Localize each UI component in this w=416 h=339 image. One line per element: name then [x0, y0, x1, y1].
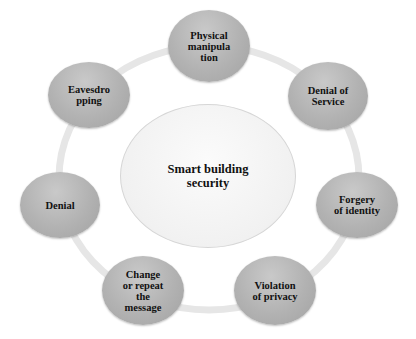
node-label: Physical manipula tion	[182, 30, 237, 63]
node-label: Denial of Service	[302, 85, 355, 107]
node-denial: Denial	[20, 172, 100, 238]
node-physical-manipulation: Physical manipula tion	[168, 10, 250, 82]
node-forgery-of-identity: Forgery of identity	[316, 172, 398, 238]
smart-building-security-diagram: Smart building security Physical manipul…	[0, 0, 416, 339]
node-denial-of-service: Denial of Service	[288, 62, 368, 130]
center-topic: Smart building security	[120, 104, 296, 248]
node-label: Denial	[39, 200, 80, 211]
node-change-or-repeat-the-message: Change or repeat the message	[102, 256, 184, 325]
center-label: Smart building security	[168, 162, 249, 190]
node-violation-of-privacy: Violation of privacy	[234, 256, 316, 325]
node-label: Forgery of identity	[328, 194, 386, 216]
node-eavesdropping: Eavesdro pping	[48, 62, 130, 128]
node-label: Violation of privacy	[246, 280, 303, 302]
node-label: Change or repeat the message	[117, 269, 170, 313]
node-label: Eavesdro pping	[62, 84, 116, 106]
